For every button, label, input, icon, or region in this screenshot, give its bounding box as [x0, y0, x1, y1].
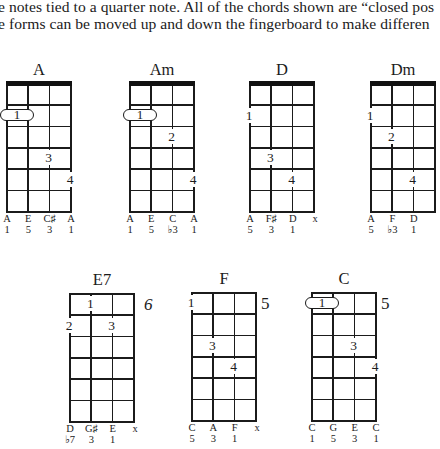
chord-title: A — [0, 61, 92, 79]
string-degree: 5 — [362, 224, 380, 235]
muted-string-x: x — [306, 213, 324, 224]
fretboard-grid — [370, 83, 436, 213]
string-note: F — [226, 422, 244, 433]
string-note: D — [61, 423, 79, 434]
string-degree: 3 — [262, 224, 280, 235]
string-degree: 1 — [104, 434, 122, 445]
finger-marker: 4 — [287, 172, 297, 187]
string-degree: 3 — [346, 433, 364, 444]
string-note: D — [284, 213, 302, 224]
chord-diagram-dm: Dm 1 2 4 A F D 5 ♭3 1 — [370, 83, 436, 233]
string-degree: 5 — [19, 224, 37, 235]
finger-marker: 1 — [365, 108, 375, 123]
finger-marker: 3 — [107, 318, 117, 333]
barre-marker: 1 — [123, 109, 157, 121]
string-note: G♯ — [82, 423, 100, 434]
string-note: G — [324, 422, 342, 433]
barre-marker: 1 — [0, 109, 34, 121]
string-degree: 5 — [324, 433, 342, 444]
string-note: A — [241, 213, 259, 224]
fretboard-grid — [249, 83, 315, 213]
chord-diagram-c: C 5 1 3 4 C G E C 1 5 3 1 — [311, 292, 377, 442]
finger-marker: 2 — [167, 129, 177, 144]
string-degree: ♭3 — [164, 224, 182, 235]
string-degree: 3 — [41, 224, 59, 235]
string-note: D — [405, 213, 423, 224]
string-note: C — [164, 213, 182, 224]
muted-string-x: x — [126, 423, 144, 434]
string-note: A — [362, 213, 380, 224]
string-degree: 5 — [241, 224, 259, 235]
string-degree: ♭3 — [383, 224, 401, 235]
finger-marker: 1 — [186, 295, 196, 310]
string-note: A — [0, 213, 16, 224]
string-note: C — [183, 422, 201, 433]
barre-marker: 1 — [305, 297, 339, 309]
finger-marker: 3 — [44, 150, 54, 165]
fretboard-grid — [311, 292, 377, 422]
finger-marker: 3 — [349, 338, 359, 353]
chord-title: C — [291, 270, 397, 288]
string-note: E — [142, 213, 160, 224]
string-degree: 1 — [0, 224, 16, 235]
nut — [249, 81, 315, 86]
string-degree: 1 — [185, 224, 203, 235]
string-degree: 1 — [284, 224, 302, 235]
string-note: F — [383, 213, 401, 224]
chord-diagram-a: A 1 3 4 A E C♯ A 1 5 3 1 — [6, 83, 72, 233]
finger-marker: 4 — [188, 172, 198, 187]
string-degree: ♭7 — [61, 434, 79, 445]
fret-position-number: 5 — [261, 295, 270, 313]
finger-marker: 4 — [229, 359, 239, 374]
fretboard-grid — [129, 83, 195, 213]
chord-diagram-am: Am 1 2 4 A E C A 1 5 ♭3 1 — [129, 83, 195, 233]
string-note: A — [121, 213, 139, 224]
string-degree: 1 — [367, 433, 385, 444]
muted-string-x: x — [248, 422, 266, 433]
nut — [129, 81, 195, 86]
string-note: C — [367, 422, 385, 433]
string-degree: 1 — [62, 224, 80, 235]
fret-position-number: 5 — [381, 295, 390, 313]
string-degree: 1 — [405, 224, 423, 235]
string-note: C♯ — [41, 213, 59, 224]
nut — [370, 81, 436, 86]
string-note: E — [19, 213, 37, 224]
string-degree: 3 — [204, 433, 222, 444]
string-note: A — [62, 213, 80, 224]
finger-marker: 4 — [370, 359, 380, 374]
chord-title: E7 — [49, 271, 155, 289]
fret-position-number: 6 — [144, 296, 153, 314]
string-degree: 3 — [82, 434, 100, 445]
string-note: E — [346, 422, 364, 433]
chord-diagram-d: D 1 3 4 A F♯ D x 5 3 1 — [249, 83, 315, 233]
finger-marker: 2 — [64, 318, 74, 333]
chord-diagram-f: F 5 1 3 4 C A F x 5 3 1 — [191, 292, 257, 442]
finger-marker: 1 — [85, 296, 95, 311]
chord-title: D — [229, 61, 335, 79]
chord-diagram-e7: E7 6 1 2 3 D G♯ E x ♭7 3 1 — [69, 293, 135, 443]
finger-marker: 4 — [408, 172, 418, 187]
string-degree: 1 — [226, 433, 244, 444]
string-note: A — [204, 422, 222, 433]
string-degree: 1 — [121, 224, 139, 235]
fretboard-grid — [6, 83, 72, 213]
string-note: E — [104, 423, 122, 434]
chord-title: Am — [109, 61, 215, 79]
body-text-line-2: e forms can be moved up and down the fin… — [0, 15, 430, 32]
string-note: F♯ — [262, 213, 280, 224]
fretboard-grid — [69, 293, 135, 423]
finger-marker: 3 — [265, 150, 275, 165]
string-degree: 5 — [183, 433, 201, 444]
string-note: C — [303, 422, 321, 433]
chord-title: Dm — [350, 61, 440, 79]
finger-marker: 3 — [207, 338, 217, 353]
nut — [6, 81, 72, 86]
string-degree: 5 — [142, 224, 160, 235]
chord-title: F — [171, 270, 277, 288]
body-text-line-1: e notes tied to a quarter note. All of t… — [0, 0, 434, 15]
finger-marker: 4 — [65, 172, 75, 187]
finger-marker: 1 — [244, 108, 254, 123]
string-note: A — [185, 213, 203, 224]
finger-marker: 2 — [386, 129, 396, 144]
